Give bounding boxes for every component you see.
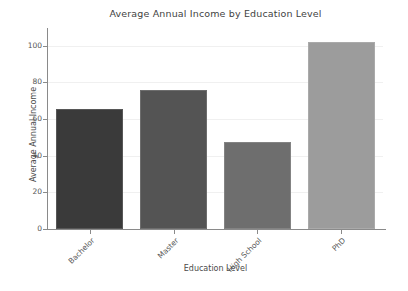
y-tick-mark — [43, 156, 47, 157]
x-tick-mark — [341, 230, 342, 234]
x-axis-spine — [46, 229, 386, 230]
y-tick-label: 100 — [16, 42, 42, 50]
y-tick-label: 0 — [16, 225, 42, 233]
y-axis-spine — [47, 28, 48, 230]
y-tick-mark — [43, 119, 47, 120]
x-tick-mark — [257, 230, 258, 234]
bar-master[interactable] — [140, 90, 207, 229]
x-axis-title: Education Level — [48, 264, 383, 273]
x-tick-mark — [90, 230, 91, 234]
y-tick-mark — [43, 192, 47, 193]
plot-area — [48, 31, 383, 229]
x-tick-mark — [174, 230, 175, 234]
bar-high-school[interactable] — [224, 142, 291, 229]
y-tick-mark — [43, 229, 47, 230]
bar-phd[interactable] — [308, 42, 375, 229]
y-tick-mark — [43, 46, 47, 47]
bar-bachelor[interactable] — [56, 109, 123, 229]
y-axis-title: Average Annual Income — [29, 55, 38, 215]
y-tick-mark — [43, 82, 47, 83]
chart-figure: Average Annual Income by Education Level… — [0, 0, 408, 291]
chart-title: Average Annual Income by Education Level — [48, 8, 383, 19]
